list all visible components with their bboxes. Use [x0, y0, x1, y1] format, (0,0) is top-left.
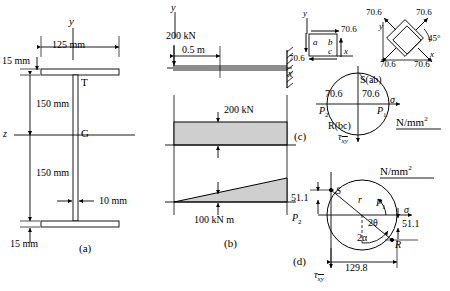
panel-a-web-thickness: 10 mm: [99, 196, 127, 206]
panel-c-units-text: N/mm: [396, 116, 424, 128]
panel-d-p1-sub: 1: [382, 203, 386, 211]
panel-c-element-axis-y: y: [303, 9, 307, 18]
panel-b-moment-value: 100 kN m: [194, 215, 234, 225]
panel-c-circle-right-value: 70.6: [362, 89, 380, 99]
panel-c-rot-axis-y: y: [379, 22, 383, 31]
panel-c-rot-bot-right: 70.6: [414, 60, 430, 69]
panel-c-point-p2: P2: [319, 106, 329, 119]
panel-b-axis-x: x: [288, 69, 292, 79]
panel-a-flange-thickness-top: 15 mm: [2, 56, 30, 66]
panel-d-caption: (d): [293, 256, 306, 267]
panel-a-depth-lower: 150 mm: [36, 168, 69, 178]
panel-c-rot-top-right: 70.6: [416, 8, 432, 17]
panel-d-point-p2: P2: [292, 213, 302, 226]
panel-d-units-exp: 2: [408, 164, 412, 172]
engineering-figure: y 125 mm 15 mm T 150 mm z G 150 mm 10 mm…: [0, 0, 450, 291]
panel-c-caption: (c): [294, 131, 306, 142]
panel-a-linework: [14, 28, 135, 243]
panel-c-rot-top-left: 70.6: [366, 8, 382, 17]
panel-c-element-axis-x: x: [344, 47, 348, 56]
panel-c-axis-sigma: σ: [390, 95, 395, 105]
panel-d-units-text: N/mm: [380, 165, 408, 177]
panel-c-p2-sub: 2: [325, 111, 329, 119]
panel-c-element-label-a: a: [313, 38, 318, 47]
panel-a-axis-y: y: [69, 16, 74, 27]
panel-d-point-r: R: [395, 240, 401, 250]
panel-a-axis-z: z: [3, 129, 7, 139]
panel-a-point-G: G: [81, 128, 89, 139]
panel-c-point-r: R(bc): [328, 121, 351, 131]
panel-b-span: 0.5 m: [182, 45, 205, 55]
panel-c-rot-axis-x: x: [430, 50, 434, 59]
panel-c-element-label-c: c: [328, 47, 332, 56]
panel-a-point-T: T: [81, 77, 88, 88]
panel-c-units-exp: 2: [424, 115, 428, 123]
panel-d-point-s: S: [336, 186, 341, 196]
panel-b-axis-y: y: [171, 3, 175, 13]
panel-d-radius-label: r: [358, 195, 362, 205]
panel-d-axis-tau: τxy: [314, 270, 324, 283]
panel-d-tau-sub: xy: [318, 275, 324, 283]
panel-d-point-p1: P1: [376, 198, 386, 211]
panel-d-units: N/mm2: [380, 165, 412, 177]
panel-a-flange-width: 125 mm: [52, 40, 85, 50]
panel-d-angle-2theta: 2θ: [368, 218, 378, 228]
panel-c-axis-tau: τxy: [338, 132, 348, 145]
panel-d-axis-sigma: σ: [404, 205, 409, 215]
panel-c-p1-sub: 1: [383, 111, 387, 119]
panel-b-load: 200 kN: [166, 31, 196, 41]
panel-c-rot-bot-left: 70.6: [380, 60, 396, 69]
panel-d-angle-2alpha: 2α: [357, 233, 367, 243]
panel-c-tau-sub: xy: [342, 137, 348, 145]
panel-d-left-value: 51.1: [291, 193, 309, 203]
panel-b-shear-value: 200 kN: [224, 105, 254, 115]
panel-d-right-value: 51.1: [402, 219, 420, 229]
panel-c-shear-left: 70.6: [289, 54, 305, 63]
panel-b-caption: (b): [224, 238, 237, 249]
panel-a-depth-upper: 150 mm: [36, 99, 69, 109]
panel-a-flange-thickness-bottom: 15 mm: [10, 239, 38, 249]
panel-c-circle-left-value: 70.6: [325, 89, 343, 99]
panel-c-shear-top: 70.6: [341, 25, 357, 34]
panel-c-point-p1: P1: [377, 106, 387, 119]
panel-a-caption: (a): [79, 243, 91, 254]
panel-c-rot-angle: 45°: [428, 34, 441, 43]
panel-c-units: N/mm2: [396, 116, 428, 128]
panel-d-p2-sub: 2: [298, 218, 302, 226]
panel-c-point-s: S(ab): [360, 75, 382, 85]
panel-d-bottom-value: 129.8: [345, 263, 368, 273]
